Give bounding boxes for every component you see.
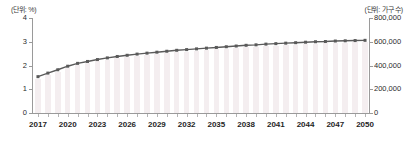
- right-axis-tick-label: 200,000: [374, 84, 401, 93]
- x-axis-tick: [345, 114, 346, 117]
- x-axis-tick-label: 2047: [326, 120, 344, 129]
- x-axis-tick-label: 2035: [207, 120, 225, 129]
- right-axis-tick: [370, 113, 373, 114]
- line-marker: [245, 44, 248, 47]
- line-marker: [136, 53, 139, 56]
- right-axis-tick: [370, 42, 373, 43]
- x-axis-tick: [335, 114, 336, 117]
- x-axis-tick: [306, 114, 307, 117]
- x-axis-tick: [107, 114, 108, 117]
- right-axis-tick-label: 800,000: [374, 13, 401, 22]
- line-marker: [205, 47, 208, 50]
- x-axis-tick: [246, 114, 247, 117]
- line-marker: [36, 75, 39, 78]
- x-axis-tick: [88, 114, 89, 117]
- right-axis-tick: [370, 18, 373, 19]
- plot-area: [33, 18, 370, 113]
- line-marker: [314, 40, 317, 43]
- x-axis-tick: [58, 114, 59, 117]
- x-axis-tick-label: 2044: [297, 120, 315, 129]
- x-axis-tick: [256, 114, 257, 117]
- x-axis-tick: [365, 114, 366, 117]
- line-marker: [56, 68, 59, 71]
- line-marker: [145, 52, 148, 55]
- x-axis-tick: [216, 114, 217, 117]
- right-axis-tick: [370, 66, 373, 67]
- line-marker: [126, 54, 129, 57]
- x-axis-tick: [355, 114, 356, 117]
- line-marker: [304, 41, 307, 44]
- left-axis-tick: [29, 42, 32, 43]
- line-marker: [225, 45, 228, 48]
- line-marker: [294, 41, 297, 44]
- x-axis-tick: [78, 114, 79, 117]
- x-axis-tick: [206, 114, 207, 117]
- line-series: [33, 18, 370, 113]
- line-marker: [284, 42, 287, 45]
- left-axis-tick-label: 4: [23, 13, 27, 22]
- line-marker: [215, 46, 218, 49]
- x-axis-tick: [68, 114, 69, 117]
- line-marker: [66, 65, 69, 68]
- x-axis-tick: [48, 114, 49, 117]
- right-axis-tick-label: 0: [374, 108, 378, 117]
- chart-container: (단위: %) (단위: 가구 수) 01234 0200,000400,000…: [0, 0, 411, 142]
- line-marker: [264, 43, 267, 46]
- line-marker: [175, 49, 178, 52]
- line-marker: [165, 50, 168, 53]
- left-axis-tick-label: 0: [23, 108, 27, 117]
- x-axis-tick-label: 2050: [356, 120, 374, 129]
- x-axis-tick: [117, 114, 118, 117]
- x-axis-tick: [296, 114, 297, 117]
- x-axis-tick-label: 2041: [267, 120, 285, 129]
- line-marker: [344, 39, 347, 42]
- left-axis-tick: [29, 66, 32, 67]
- x-axis-tick: [177, 114, 178, 117]
- x-axis-tick: [167, 114, 168, 117]
- x-axis-tick: [147, 114, 148, 117]
- left-axis-tick-label: 1: [23, 84, 27, 93]
- x-axis-tick: [236, 114, 237, 117]
- x-axis-tick-label: 2029: [148, 120, 166, 129]
- x-axis-tick: [38, 114, 39, 117]
- right-axis-tick: [370, 89, 373, 90]
- line-marker: [235, 45, 238, 48]
- x-axis-tick: [187, 114, 188, 117]
- line-marker: [354, 39, 357, 42]
- x-axis-line: [33, 113, 370, 114]
- x-axis-tick-label: 2038: [237, 120, 255, 129]
- line-marker: [334, 40, 337, 43]
- x-axis-tick: [157, 114, 158, 117]
- x-axis-tick-label: 2017: [29, 120, 47, 129]
- line-marker: [324, 40, 327, 43]
- line-marker: [155, 51, 158, 54]
- line-marker: [255, 43, 258, 46]
- x-axis-tick: [315, 114, 316, 117]
- line-marker: [274, 42, 277, 45]
- right-axis-tick-label: 400,000: [374, 61, 401, 70]
- x-axis-tick-label: 2023: [89, 120, 107, 129]
- left-axis-tick-label: 2: [23, 61, 27, 70]
- x-axis-tick-label: 2032: [178, 120, 196, 129]
- line-marker: [76, 62, 79, 65]
- x-axis-tick: [127, 114, 128, 117]
- left-axis-tick: [29, 18, 32, 19]
- line-marker: [46, 72, 49, 75]
- x-axis-tick: [266, 114, 267, 117]
- line-marker: [185, 48, 188, 51]
- x-axis-tick: [276, 114, 277, 117]
- x-axis-tick: [286, 114, 287, 117]
- x-axis-tick: [137, 114, 138, 117]
- x-axis-tick-label: 2020: [59, 120, 77, 129]
- right-axis-tick-label: 600,000: [374, 37, 401, 46]
- x-axis-tick: [325, 114, 326, 117]
- x-axis-tick: [97, 114, 98, 117]
- x-axis-tick: [226, 114, 227, 117]
- line-marker: [96, 58, 99, 61]
- x-axis-tick-label: 2026: [118, 120, 136, 129]
- left-axis-tick: [29, 113, 32, 114]
- left-axis-tick-label: 3: [23, 37, 27, 46]
- left-axis-tick: [29, 89, 32, 90]
- line-marker: [86, 60, 89, 63]
- line-marker: [106, 56, 109, 59]
